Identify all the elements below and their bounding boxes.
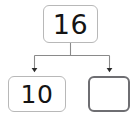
part-one-box: 10 — [8, 76, 66, 112]
part-one-value: 10 — [21, 82, 54, 107]
whole-number-box: 16 — [43, 5, 98, 43]
whole-number-value: 16 — [53, 11, 88, 38]
number-bond-diagram: 16 10 — [0, 0, 140, 116]
part-two-answer-box[interactable] — [88, 76, 130, 112]
